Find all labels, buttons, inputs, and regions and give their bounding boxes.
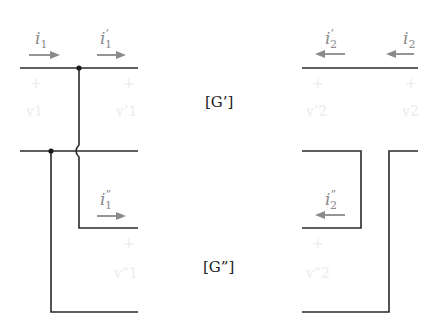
- label-i1-prime: i’1: [100, 27, 112, 51]
- bottom-left-wire: [51, 151, 138, 312]
- label-i2-prime: i’2: [325, 27, 337, 51]
- plus-v1-double-prime: +: [123, 235, 135, 251]
- plus-v2-prime: +: [312, 75, 324, 91]
- label-i2: i2: [403, 28, 415, 51]
- arrow-left-icon: [315, 50, 345, 58]
- label-v1-double-prime: v”1: [113, 265, 138, 281]
- two-port-diagram: i1 i’1 i”1 i’2 i2 i”2 + v1 + v’1 + v”1 +…: [0, 0, 442, 336]
- arrow-left-icon: [315, 211, 345, 219]
- plus-v1-prime: +: [123, 75, 135, 91]
- label-v1: v1: [25, 103, 43, 119]
- block-label-g-double-prime: [G”]: [203, 258, 234, 276]
- label-i2-double-prime: i”2: [325, 188, 337, 212]
- plus-v1: +: [30, 75, 42, 91]
- label-v2-prime: v’2: [305, 103, 327, 119]
- block-label-g-prime: [G’]: [205, 93, 233, 111]
- current-arrows: [29, 50, 414, 220]
- junction-dot-middle: [48, 148, 53, 153]
- plus-v2: +: [405, 75, 417, 91]
- label-v1-prime: v’1: [115, 103, 137, 119]
- right-bottom-wire: [302, 151, 418, 312]
- label-v2: v2: [401, 103, 419, 119]
- junction-dot-top: [76, 65, 81, 70]
- arrow-left-icon: [386, 50, 414, 58]
- arrow-right-icon: [29, 51, 60, 59]
- label-v2-double-prime: v”2: [305, 265, 330, 281]
- arrow-right-icon: [97, 212, 126, 220]
- label-i1-double-prime: i”1: [100, 188, 112, 212]
- current-labels: i1 i’1 i”1 i’2 i2 i”2: [35, 27, 415, 212]
- label-i1: i1: [35, 28, 47, 51]
- plus-v2-double-prime: +: [312, 235, 324, 251]
- arrow-right-icon: [97, 51, 126, 59]
